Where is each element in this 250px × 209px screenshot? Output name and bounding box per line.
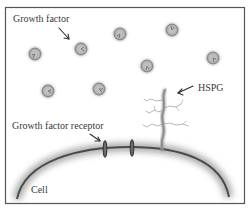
label-growth-factor-receptor: Growth factor receptor xyxy=(12,121,104,131)
growth-factor-icon xyxy=(74,42,89,57)
diagram-graphics xyxy=(0,0,250,209)
hspg-molecule xyxy=(143,90,188,150)
cell-membrane xyxy=(17,147,229,199)
growth-factor-icon xyxy=(92,82,107,97)
arrow-growth-factor-icon xyxy=(59,28,69,39)
arrow-receptor-icon xyxy=(90,134,100,141)
growth-factor-icon xyxy=(41,84,56,99)
label-hspg: HSPG xyxy=(198,83,224,93)
growth-factor-icon xyxy=(28,47,43,62)
label-cell: Cell xyxy=(31,185,48,195)
label-growth-factor: Growth factor xyxy=(13,14,69,24)
growth-factor-icon xyxy=(113,27,128,42)
receptor-icon xyxy=(103,141,107,158)
growth-factor-icon xyxy=(206,51,221,66)
growth-factor-icon xyxy=(165,23,180,38)
arrow-hspg-icon xyxy=(178,86,193,95)
growth-factor-icon xyxy=(140,59,155,74)
receptor-icon xyxy=(130,140,134,157)
diagram-canvas: Growth factor HSPG Growth factor recepto… xyxy=(0,0,250,209)
